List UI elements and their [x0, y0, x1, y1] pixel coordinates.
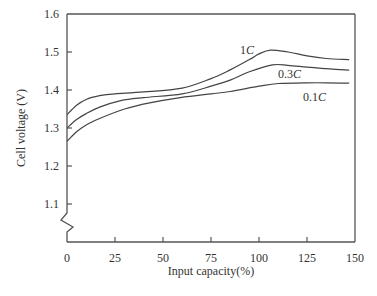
axis-ticks: 02550751001251501.11.21.31.41.51.6 — [44, 7, 364, 265]
voltage-chart: 02550751001251501.11.21.31.41.51.6 1C0.3… — [0, 0, 377, 296]
plot-frame — [61, 14, 355, 242]
x-tick-label: 150 — [346, 251, 364, 265]
series-label-1C: 1C — [240, 43, 255, 57]
x-tick-label: 125 — [298, 251, 316, 265]
series-label-unit: C — [293, 67, 302, 81]
x-axis-title: Input capacity(%) — [168, 264, 254, 278]
series-label-0-3C: 0.3C — [278, 67, 302, 81]
series-label-0-1C: 0.1C — [303, 90, 327, 104]
y-tick-label: 1.5 — [44, 45, 59, 59]
series-labels: 1C0.3C0.1C — [240, 43, 327, 104]
series-label-unit: C — [318, 90, 327, 104]
y-tick-label: 1.4 — [44, 83, 59, 97]
series-label-unit: C — [246, 43, 255, 57]
x-tick-label: 100 — [250, 251, 268, 265]
y-tick-label: 1.1 — [44, 197, 59, 211]
y-axis-title: Cell voltage (V) — [14, 89, 28, 167]
x-tick-label: 75 — [205, 251, 217, 265]
x-tick-label: 25 — [109, 251, 121, 265]
y-tick-label: 1.2 — [44, 159, 59, 173]
x-tick-label: 50 — [157, 251, 169, 265]
x-tick-label: 0 — [64, 251, 70, 265]
series-label-rate: 0.3 — [278, 67, 293, 81]
series-label-rate: 0.1 — [303, 90, 318, 104]
y-tick-label: 1.3 — [44, 121, 59, 135]
y-tick-label: 1.6 — [44, 7, 59, 21]
